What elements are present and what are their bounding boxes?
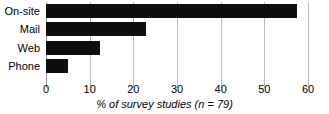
- x-axis-title: % of survey studies (n = 79): [0, 98, 329, 110]
- x-tick-label-20: 20: [118, 84, 148, 95]
- x-tick-label-10: 10: [75, 84, 105, 95]
- gridline-60: [308, 2, 309, 88]
- category-label-web: Web: [0, 43, 40, 54]
- x-tick-label-30: 30: [162, 84, 192, 95]
- survey-modes-bar-chart: On-siteMailWebPhone 0102030405060 % of s…: [0, 0, 329, 114]
- x-tick-label-40: 40: [206, 84, 236, 95]
- plot-area: [46, 2, 308, 82]
- bar-row: [46, 59, 308, 73]
- bar-row: [46, 22, 308, 36]
- category-label-phone: Phone: [0, 61, 40, 72]
- bar-on-site: [46, 4, 297, 18]
- x-axis-title-prefix: % of survey studies (: [96, 98, 198, 110]
- x-tick-label-60: 60: [293, 84, 323, 95]
- bar-row: [46, 4, 308, 18]
- x-tick-label-50: 50: [249, 84, 279, 95]
- bar-web: [46, 41, 100, 55]
- bar-phone: [46, 59, 68, 73]
- bar-mail: [46, 22, 146, 36]
- bar-row: [46, 41, 308, 55]
- category-label-on-site: On-site: [0, 6, 40, 17]
- category-label-mail: Mail: [0, 24, 40, 35]
- x-tick-label-0: 0: [31, 84, 61, 95]
- x-axis-title-suffix: = 79): [204, 98, 232, 110]
